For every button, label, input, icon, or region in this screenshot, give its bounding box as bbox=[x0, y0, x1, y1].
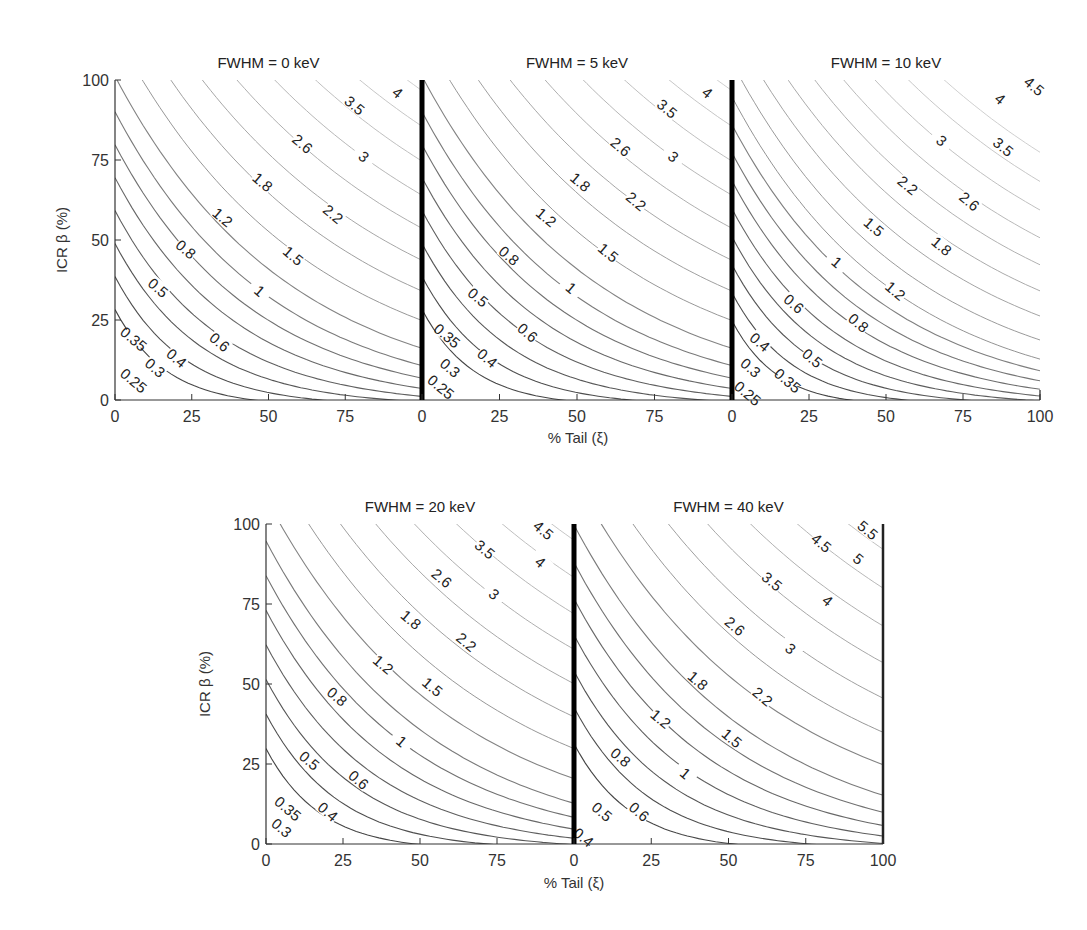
contour-svg: 0.250.30.350.40.50.60.811.21.51.82.22.63… bbox=[0, 0, 1087, 930]
contour-label: 0.8 bbox=[324, 683, 351, 709]
contour-label: 1.5 bbox=[718, 725, 745, 751]
contour-label: 1.5 bbox=[280, 242, 307, 268]
x-tick-label: 0 bbox=[728, 408, 737, 425]
contour-line bbox=[115, 244, 453, 404]
panel-title: FWHM = 5 keV bbox=[526, 54, 628, 71]
contour-panel-3: 0.30.350.40.50.60.811.21.51.82.22.633.54… bbox=[233, 125, 605, 869]
x-tick-label: 25 bbox=[491, 408, 509, 425]
y-tick-label: 50 bbox=[242, 676, 260, 693]
contour-label: 2.6 bbox=[722, 613, 749, 639]
contour-label: 0.4 bbox=[314, 798, 341, 824]
contour-label: 3.5 bbox=[341, 92, 368, 118]
panel-title: FWHM = 10 keV bbox=[831, 54, 941, 71]
contour-line bbox=[574, 378, 914, 712]
contour-line bbox=[422, 244, 763, 404]
contour-line bbox=[422, 310, 763, 407]
contour-line bbox=[732, 125, 1071, 378]
contour-label: 5.5 bbox=[854, 517, 881, 543]
contour-label: 0.5 bbox=[296, 747, 323, 773]
contour-line bbox=[422, 112, 763, 373]
contour-line bbox=[115, 145, 453, 384]
contour-label: 3.5 bbox=[990, 134, 1017, 160]
y-tick-label: 100 bbox=[233, 516, 260, 533]
contour-label: 0.5 bbox=[465, 284, 492, 310]
contour-label: 2.2 bbox=[894, 172, 921, 198]
contour-label: 0.8 bbox=[845, 310, 872, 336]
y-tick-label: 25 bbox=[91, 312, 109, 329]
contour-line bbox=[115, 0, 453, 274]
x-tick-label: 25 bbox=[642, 852, 660, 869]
x-tick-label: 0 bbox=[570, 852, 579, 869]
contour-line bbox=[115, 0, 453, 244]
contour-figure: 0.250.30.350.40.50.60.811.21.51.82.22.63… bbox=[0, 0, 1087, 930]
contour-line bbox=[422, 0, 763, 146]
x-tick-label: 25 bbox=[800, 408, 818, 425]
contour-line bbox=[115, 112, 453, 373]
contour-line bbox=[732, 0, 1071, 303]
x-tick-label: 25 bbox=[334, 852, 352, 869]
contour-label: 1.2 bbox=[209, 204, 236, 230]
y-tick-label: 25 bbox=[242, 756, 260, 773]
contour-label: 0.25 bbox=[731, 377, 764, 409]
x-tick-label: 75 bbox=[488, 852, 506, 869]
contour-label: 0.6 bbox=[780, 290, 807, 316]
contour-label: 4.5 bbox=[1021, 73, 1048, 99]
contour-label: 0.6 bbox=[206, 329, 233, 355]
panel-title: FWHM = 40 keV bbox=[673, 498, 783, 515]
contour-line bbox=[422, 0, 763, 244]
contour-line bbox=[266, 714, 605, 849]
contour-panel-0: 0.250.30.350.40.50.60.811.21.51.82.22.63… bbox=[82, 0, 452, 425]
contour-label: 2.6 bbox=[607, 134, 634, 160]
contour-line bbox=[574, 563, 914, 820]
contour-line bbox=[422, 0, 763, 274]
contour-line bbox=[422, 0, 763, 303]
x-axis-label-top: % Tail (ξ) bbox=[548, 429, 609, 446]
y-axis-label-bottom: ICR β (%) bbox=[196, 651, 213, 717]
y-tick-label: 75 bbox=[91, 152, 109, 169]
contour-label: 4.5 bbox=[808, 530, 835, 556]
contour-label: 2.2 bbox=[749, 683, 776, 709]
contour-label: 3.5 bbox=[654, 95, 681, 121]
contour-label: 0.6 bbox=[626, 798, 653, 824]
x-tick-label: 75 bbox=[797, 852, 815, 869]
contour-line bbox=[732, 0, 1071, 199]
contour-label: 1.2 bbox=[882, 278, 909, 304]
y-tick-label: 75 bbox=[242, 596, 260, 613]
x-tick-label: 75 bbox=[954, 408, 972, 425]
contour-line bbox=[266, 311, 605, 665]
y-tick-label: 50 bbox=[91, 232, 109, 249]
contour-label: 2.2 bbox=[320, 201, 347, 227]
contour-label: 2.2 bbox=[623, 188, 650, 214]
contour-line bbox=[266, 125, 605, 524]
contour-line bbox=[574, 427, 914, 745]
x-tick-label: 50 bbox=[260, 408, 278, 425]
contour-label: 1.8 bbox=[684, 667, 711, 693]
contour-label: 1.8 bbox=[928, 233, 955, 259]
contour-line bbox=[732, 0, 1071, 171]
contour-line bbox=[732, 0, 1071, 253]
x-tick-label: 50 bbox=[411, 852, 429, 869]
contour-label: 0.5 bbox=[589, 798, 616, 824]
contour-label: 1.8 bbox=[398, 606, 425, 632]
x-tick-label: 75 bbox=[646, 408, 664, 425]
contour-line bbox=[732, 0, 1071, 226]
contour-line bbox=[266, 498, 605, 788]
y-tick-label: 0 bbox=[100, 392, 109, 409]
contour-line bbox=[115, 0, 453, 146]
contour-line bbox=[115, 0, 453, 212]
x-tick-label: 25 bbox=[183, 408, 201, 425]
contour-label: 1.5 bbox=[861, 214, 888, 240]
contour-label: 1.2 bbox=[370, 651, 397, 677]
x-tick-label: 50 bbox=[720, 852, 738, 869]
panel-title: FWHM = 20 keV bbox=[365, 498, 475, 515]
contour-panel-4: 0.40.50.60.811.21.51.82.22.633.544.555.5… bbox=[570, 85, 914, 869]
contour-label: 2.2 bbox=[453, 629, 480, 655]
x-tick-label: 50 bbox=[568, 408, 586, 425]
contour-label: 0.8 bbox=[172, 236, 199, 262]
y-axis-label-top: ICR β (%) bbox=[53, 207, 70, 273]
contour-label: 3.5 bbox=[472, 536, 499, 562]
contour-label: 2.6 bbox=[289, 130, 316, 156]
contour-label: 0.5 bbox=[799, 345, 826, 371]
contour-label: 2.6 bbox=[956, 188, 983, 214]
panel-title: FWHM = 0 keV bbox=[217, 54, 319, 71]
